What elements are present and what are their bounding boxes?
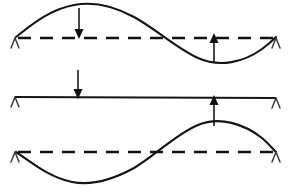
support-pin-bottom-right <box>272 152 280 162</box>
support-pin-middle-left <box>11 97 19 107</box>
panel-bottom-wave <box>11 121 280 183</box>
support-pin-top-left <box>11 38 19 48</box>
arrow-down-top-crest <box>75 8 84 39</box>
panel-top-wave <box>11 4 280 63</box>
arrow-down-middle <box>74 70 83 99</box>
beam-line-middle <box>15 97 276 98</box>
panel-middle-equilibrium <box>11 70 280 126</box>
wave-curve-bottom <box>16 121 276 183</box>
standing-wave-figure <box>0 0 289 188</box>
support-pin-middle-right <box>272 98 280 108</box>
wave-curve-top <box>16 4 276 63</box>
figure-canvas <box>0 0 289 188</box>
